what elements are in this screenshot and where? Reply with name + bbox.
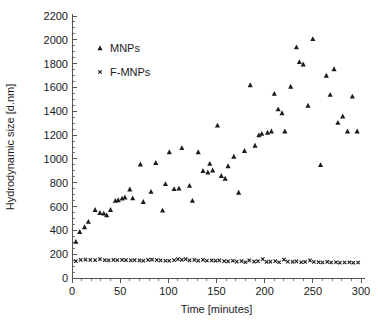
y-tick-label: 200 <box>50 248 68 260</box>
data-point-mnps <box>276 106 281 111</box>
data-point-f-mnps <box>286 260 289 263</box>
data-point-mnps <box>82 224 87 229</box>
data-point-f-mnps <box>188 259 191 262</box>
legend-label-f-mnps: F-MNPs <box>110 66 151 78</box>
data-point-f-mnps <box>343 261 346 264</box>
data-point-f-mnps <box>334 261 337 264</box>
data-point-f-mnps <box>180 258 183 261</box>
data-point-f-mnps <box>348 261 351 264</box>
data-point-mnps <box>179 145 184 150</box>
data-point-mnps <box>236 190 241 195</box>
data-point-f-mnps <box>124 258 127 261</box>
data-point-mnps <box>345 129 350 134</box>
x-tick-label: 300 <box>352 285 370 297</box>
data-point-f-mnps <box>303 260 306 263</box>
data-point-f-mnps <box>98 257 101 260</box>
data-point-mnps <box>138 162 143 167</box>
data-point-f-mnps <box>142 259 145 262</box>
data-point-f-mnps <box>291 260 294 263</box>
data-point-mnps <box>160 208 165 213</box>
data-point-f-mnps <box>133 258 136 261</box>
data-point-mnps <box>328 92 333 97</box>
data-point-f-mnps <box>150 258 153 261</box>
hydrodynamic-size-scatter-plot: 0200400600800100012001400160018002000220… <box>0 0 378 328</box>
data-point-f-mnps <box>329 261 332 264</box>
data-point-f-mnps <box>235 260 238 263</box>
data-point-mnps <box>205 170 210 175</box>
data-point-mnps <box>335 120 340 125</box>
data-point-f-mnps <box>201 258 204 261</box>
data-point-mnps <box>288 84 293 89</box>
x-tick-label: 200 <box>255 285 273 297</box>
x-tick-label: 100 <box>159 285 177 297</box>
y-tick-label: 400 <box>50 224 68 236</box>
legend-marker-mnps <box>97 45 102 50</box>
data-point-f-mnps <box>103 258 106 261</box>
data-point-f-mnps <box>274 259 277 262</box>
legend-label-mnps: MNPs <box>110 42 140 54</box>
data-point-f-mnps <box>176 257 179 260</box>
x-tick-label: 50 <box>114 285 126 297</box>
data-point-f-mnps <box>300 261 303 264</box>
data-point-f-mnps <box>240 259 243 262</box>
data-point-mnps <box>153 160 158 165</box>
data-point-f-mnps <box>184 257 187 260</box>
data-point-mnps <box>282 129 287 134</box>
data-point-mnps <box>242 148 247 153</box>
data-point-mnps <box>73 239 78 244</box>
data-point-f-mnps <box>120 258 123 261</box>
data-point-mnps <box>196 149 201 154</box>
y-tick-label: 1200 <box>44 129 68 141</box>
legend-marker-f-mnps <box>98 70 101 73</box>
data-point-mnps <box>148 189 153 194</box>
data-point-f-mnps <box>155 258 158 261</box>
data-point-f-mnps <box>159 259 162 262</box>
data-point-mnps <box>269 129 274 134</box>
data-point-mnps <box>176 186 181 191</box>
y-tick-label: 1800 <box>44 58 68 70</box>
data-point-f-mnps <box>256 259 259 262</box>
data-point-f-mnps <box>252 260 255 263</box>
data-point-f-mnps <box>146 258 149 261</box>
data-point-f-mnps <box>93 258 96 261</box>
chart-figure: 0200400600800100012001400160018002000220… <box>0 0 378 328</box>
data-point-mnps <box>248 82 253 87</box>
data-point-f-mnps <box>164 259 167 262</box>
data-point-mnps <box>340 114 345 119</box>
data-point-f-mnps <box>277 261 280 264</box>
data-point-f-mnps <box>338 261 341 264</box>
data-point-f-mnps <box>248 259 251 262</box>
data-point-f-mnps <box>205 259 208 262</box>
y-axis-tick-labels: 0200400600800100012001400160018002000220… <box>44 10 68 284</box>
y-tick-label: 1600 <box>44 81 68 93</box>
data-point-mnps <box>350 94 355 99</box>
data-point-f-mnps <box>356 261 359 264</box>
data-point-f-mnps <box>295 260 298 263</box>
data-point-mnps <box>108 207 113 212</box>
data-point-mnps <box>294 45 299 50</box>
data-point-f-mnps <box>321 261 324 264</box>
y-tick-label: 2000 <box>44 34 68 46</box>
data-point-f-mnps <box>193 258 196 261</box>
data-point-mnps <box>86 219 91 224</box>
data-point-f-mnps <box>282 258 285 261</box>
y-tick-label: 600 <box>50 201 68 213</box>
data-point-mnps <box>163 181 168 186</box>
x-tick-label: 250 <box>304 285 322 297</box>
data-point-f-mnps <box>261 257 264 260</box>
data-point-f-mnps <box>107 259 110 262</box>
data-point-mnps <box>200 168 205 173</box>
data-point-f-mnps <box>196 259 199 262</box>
data-point-f-mnps <box>129 259 132 262</box>
data-point-f-mnps <box>116 258 119 261</box>
data-point-f-mnps <box>269 260 272 263</box>
y-tick-label: 0 <box>62 272 68 284</box>
data-point-mnps <box>130 196 135 201</box>
data-point-mnps <box>167 149 172 154</box>
data-point-mnps <box>265 130 270 135</box>
data-point-f-mnps <box>226 260 229 263</box>
data-point-f-mnps <box>210 259 213 262</box>
x-axis-title: Time [minutes] <box>181 303 253 315</box>
y-axis-title: Hydrodynamic size [d.nm] <box>4 84 16 211</box>
data-point-mnps <box>252 143 257 148</box>
